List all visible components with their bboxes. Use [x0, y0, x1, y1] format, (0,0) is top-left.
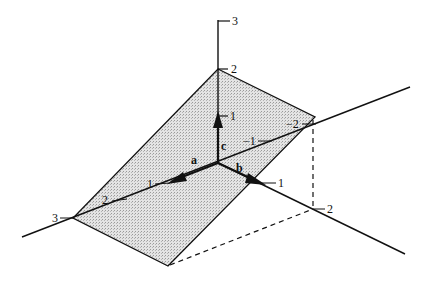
diagram-canvas: c a b 1 2 3 1 2 3 −1 −2 1 2 — [0, 0, 429, 281]
b-tick-label-2: 2 — [327, 202, 333, 216]
c-tick-label-2: 2 — [231, 62, 237, 76]
vector-label-c: c — [221, 139, 227, 153]
b-tick-label-1: 1 — [278, 176, 284, 190]
c-tick-label-3: 3 — [232, 14, 238, 28]
c-tick-label-1: 1 — [230, 109, 236, 123]
vector-label-b: b — [236, 161, 243, 175]
shaded-plane — [73, 69, 315, 266]
a-tick-label-2: 2 — [102, 193, 108, 207]
a-tick-label-neg1: −1 — [243, 134, 256, 148]
a-tick-label-3: 3 — [52, 211, 58, 225]
a-tick-label-neg2: −2 — [286, 117, 299, 131]
a-tick-label-1: 1 — [147, 177, 153, 191]
vector-label-a: a — [191, 153, 197, 167]
